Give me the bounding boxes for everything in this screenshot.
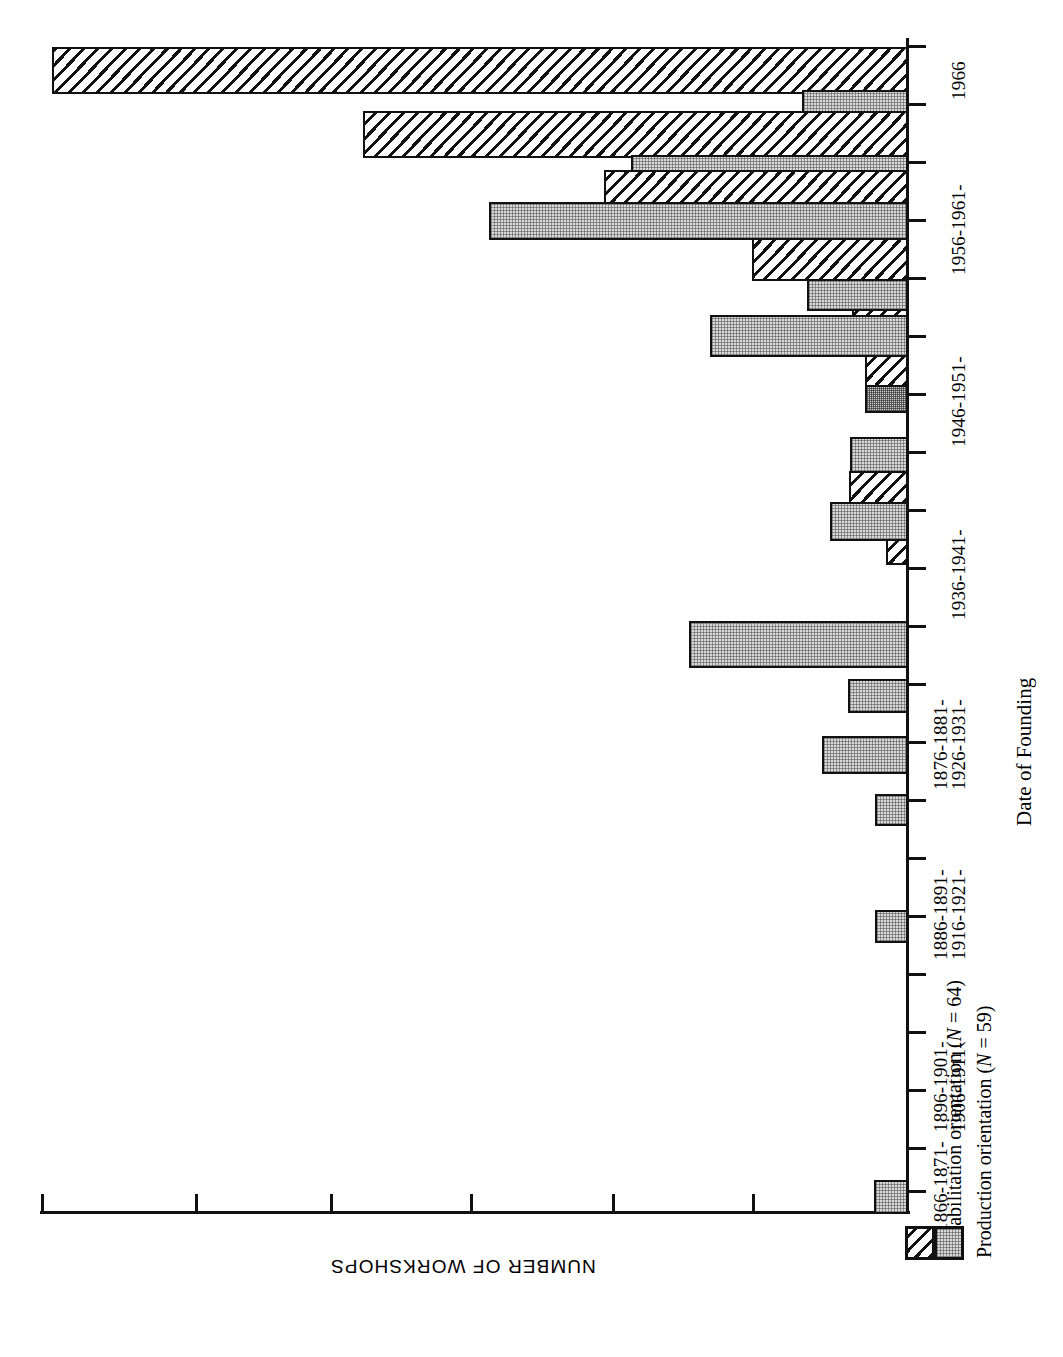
y-axis-title: NUMBER OF WORKSHOPS	[330, 1255, 596, 1277]
category-axis-tick	[906, 1089, 926, 1092]
value-axis-tick	[470, 1194, 473, 1212]
legend-label-production: Production orientation (N = 59)	[973, 1006, 996, 1258]
category-axis-tick	[906, 683, 926, 686]
category-axis-tick	[906, 103, 926, 106]
value-axis-tick	[612, 1194, 615, 1212]
bar-production-1951	[807, 279, 908, 311]
bar-production-1891	[875, 910, 908, 943]
category-axis-tick	[906, 393, 926, 396]
value-axis-tick	[752, 1194, 755, 1212]
category-axis-tick	[906, 1147, 926, 1150]
legend-n-symbol: N	[943, 1028, 965, 1041]
category-axis-tick	[906, 915, 926, 918]
x-axis-title: Date of Founding	[1012, 678, 1037, 826]
bar-production-1921	[689, 621, 908, 668]
category-label-1936-1941: 1936-1941-	[948, 529, 970, 620]
category-label-1946-1951: 1946-1951-	[948, 356, 970, 447]
bar-production-1911	[848, 679, 908, 713]
category-label-1876-1881: 1876-1881-	[930, 699, 952, 790]
bar-production-1866	[874, 1180, 908, 1214]
bar-production-1941	[865, 385, 908, 413]
category-axis-tick	[906, 1190, 926, 1193]
bar-rehabilitation-1941	[865, 355, 908, 387]
bar-production-1926	[830, 502, 908, 541]
category-axis-tick	[906, 451, 926, 454]
category-axis-tick	[906, 973, 926, 976]
bar-production-1901	[875, 794, 908, 826]
value-axis-tick	[330, 1194, 333, 1212]
category-label-text: 1936-1941-	[948, 529, 969, 620]
bar-production-1946	[710, 315, 908, 357]
legend-label-rehabilitation: Rehabilitation orientation (N = 64)	[943, 980, 966, 1258]
legend-n-symbol: N	[973, 1054, 995, 1067]
category-axis-tick	[906, 161, 926, 164]
category-axis-tick	[906, 625, 926, 628]
value-axis-spine	[40, 1211, 910, 1214]
category-label-text: 1876-1881-	[930, 699, 951, 790]
legend-n-value: = 64)	[943, 980, 965, 1028]
category-axis-tick	[906, 1031, 926, 1034]
bar-rehabilitation-1961	[363, 111, 908, 158]
value-axis-tick	[41, 1194, 44, 1212]
legend-label-production-text: Production orientation (	[973, 1067, 995, 1258]
legend-swatch-production-icon	[934, 1226, 964, 1260]
category-label-text: 1946-1951-	[948, 356, 969, 447]
bar-production-1906	[822, 736, 908, 774]
bar-rehabilitation-1931	[849, 471, 908, 504]
bar-rehabilitation-1956	[604, 170, 908, 204]
category-label-1966: 1966	[948, 61, 970, 100]
legend-swatch-rehabilitation-icon	[905, 1226, 935, 1260]
category-label-text: 1886-1891-	[930, 869, 951, 960]
bar-rehabilitation-1926	[886, 539, 908, 565]
category-label-1886-1891: 1886-1891-	[930, 869, 952, 960]
category-axis-tick	[906, 741, 926, 744]
legend-n-value: = 59)	[973, 1006, 995, 1054]
bar-rehabilitation-1966	[52, 47, 908, 94]
bar-production-1931	[850, 437, 908, 473]
category-axis-tick	[906, 335, 926, 338]
category-axis-tick	[906, 509, 926, 512]
category-axis-tick	[906, 45, 926, 48]
category-axis-tick	[906, 799, 926, 802]
value-axis-tick	[195, 1194, 198, 1212]
category-axis-tick	[906, 277, 926, 280]
category-label-text: 1956-1961-	[948, 184, 969, 275]
bar-chart-figure: 1966 1956-1961- 1946-1951- 1936-1941- 19…	[0, 0, 1063, 1357]
category-axis-tick	[906, 857, 926, 860]
category-axis-tick	[906, 567, 926, 570]
category-label-1956-1961: 1956-1961-	[948, 184, 970, 275]
category-axis-tick	[906, 219, 926, 222]
bar-production-1956	[489, 202, 908, 240]
bar-rehabilitation-1951	[752, 238, 908, 281]
